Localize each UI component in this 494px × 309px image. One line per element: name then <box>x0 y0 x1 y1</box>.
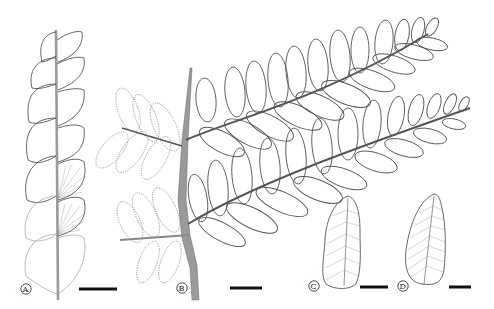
panel-b-frond: B <box>90 16 471 300</box>
panel-label-d: D <box>398 281 408 291</box>
scale-bar-b <box>230 287 262 290</box>
panel-label-a: A <box>21 284 31 294</box>
svg-text:A: A <box>22 285 29 294</box>
panel-label-b: B <box>177 283 187 293</box>
panel-d-pinnule: D <box>398 194 471 291</box>
scale-bar-a <box>79 288 117 291</box>
svg-text:B: B <box>179 284 185 293</box>
svg-text:C: C <box>311 282 317 291</box>
panel-label-c: C <box>309 281 319 291</box>
panel-a-frond: A <box>21 30 117 300</box>
botanical-figure: A <box>0 0 494 309</box>
panel-c-pinnule: C <box>309 196 388 291</box>
scale-bar-d <box>449 286 471 289</box>
scale-bar-c <box>360 286 388 289</box>
svg-text:D: D <box>400 282 406 291</box>
